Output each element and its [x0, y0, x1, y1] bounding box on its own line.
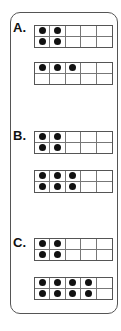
- counter-dot-icon: [54, 251, 61, 258]
- counter-dot-icon: [85, 279, 92, 286]
- ten-frame-cell: [81, 289, 96, 300]
- ten-frame-cell: [50, 132, 65, 143]
- ten-frame-cell: [97, 26, 112, 37]
- counter-dot-icon: [39, 240, 46, 247]
- ten-frame-cell: [81, 278, 96, 289]
- counter-dot-icon: [39, 144, 46, 151]
- counter-dot-icon: [39, 279, 46, 286]
- ten-frame-cell: [97, 63, 112, 74]
- counter-dot-icon: [39, 38, 46, 45]
- ten-frame-cell: [35, 182, 50, 193]
- ten-frame-cell: [35, 278, 50, 289]
- counter-dot-icon: [69, 279, 76, 286]
- ten-frame-b2: [34, 170, 113, 193]
- ten-frame-cell: [50, 239, 65, 250]
- problem-label-c: C.: [13, 236, 26, 249]
- ten-frame-cell: [66, 132, 81, 143]
- counter-dot-icon: [39, 27, 46, 34]
- ten-frame-cell: [97, 239, 112, 250]
- counter-dot-icon: [69, 172, 76, 179]
- ten-frame-cell: [50, 143, 65, 154]
- ten-frame-cell: [66, 171, 81, 182]
- problem-label-b: B.: [13, 129, 26, 142]
- ten-frame-cell: [97, 278, 112, 289]
- counter-dot-icon: [54, 27, 61, 34]
- ten-frame-cell: [97, 132, 112, 143]
- ten-frame-cell: [97, 250, 112, 261]
- ten-frame-cell: [97, 37, 112, 48]
- ten-frame-a2: [34, 62, 113, 85]
- problem-label-a: A.: [13, 21, 26, 34]
- counter-dot-icon: [39, 64, 46, 71]
- counter-dot-icon: [69, 183, 76, 190]
- counter-dot-icon: [69, 64, 76, 71]
- ten-frame-cell: [50, 171, 65, 182]
- ten-frame-cell: [81, 132, 96, 143]
- ten-frame-cell: [66, 63, 81, 74]
- ten-frame-cell: [35, 26, 50, 37]
- ten-frame-cell: [66, 250, 81, 261]
- ten-frame-b1: [34, 131, 113, 154]
- ten-frame-cell: [97, 289, 112, 300]
- counter-dot-icon: [54, 240, 61, 247]
- counter-dot-icon: [85, 290, 92, 297]
- ten-frame-cell: [66, 143, 81, 154]
- ten-frame-cell: [97, 182, 112, 193]
- ten-frame-cell: [50, 74, 65, 85]
- ten-frame-cell: [81, 26, 96, 37]
- ten-frame-cell: [81, 74, 96, 85]
- ten-frame-cell: [35, 239, 50, 250]
- ten-frame-cell: [50, 63, 65, 74]
- ten-frame-cell: [81, 239, 96, 250]
- ten-frame-cell: [97, 171, 112, 182]
- ten-frame-cell: [50, 278, 65, 289]
- counter-dot-icon: [54, 183, 61, 190]
- ten-frame-cell: [35, 289, 50, 300]
- ten-frame-cell: [35, 250, 50, 261]
- ten-frame-cell: [81, 143, 96, 154]
- ten-frame-cell: [81, 250, 96, 261]
- counter-dot-icon: [69, 290, 76, 297]
- ten-frame-cell: [50, 26, 65, 37]
- ten-frame-cell: [97, 143, 112, 154]
- ten-frame-cell: [81, 63, 96, 74]
- ten-frame-cell: [35, 143, 50, 154]
- ten-frame-cell: [81, 182, 96, 193]
- ten-frame-cell: [66, 182, 81, 193]
- ten-frame-cell: [97, 74, 112, 85]
- ten-frame-cell: [66, 278, 81, 289]
- ten-frame-cell: [66, 37, 81, 48]
- ten-frame-cell: [81, 171, 96, 182]
- ten-frame-cell: [50, 289, 65, 300]
- ten-frame-c2: [34, 277, 113, 300]
- counter-dot-icon: [39, 290, 46, 297]
- ten-frame-a1: [34, 25, 113, 48]
- ten-frame-cell: [50, 37, 65, 48]
- counter-dot-icon: [54, 64, 61, 71]
- ten-frame-cell: [66, 74, 81, 85]
- counter-dot-icon: [54, 133, 61, 140]
- ten-frame-cell: [66, 239, 81, 250]
- ten-frame-cell: [66, 289, 81, 300]
- counter-dot-icon: [39, 183, 46, 190]
- counter-dot-icon: [39, 251, 46, 258]
- ten-frame-c1: [34, 238, 113, 261]
- counter-dot-icon: [39, 133, 46, 140]
- ten-frame-cell: [66, 26, 81, 37]
- ten-frame-cell: [35, 63, 50, 74]
- ten-frame-cell: [81, 37, 96, 48]
- counter-dot-icon: [54, 172, 61, 179]
- ten-frame-cell: [35, 74, 50, 85]
- ten-frame-cell: [50, 250, 65, 261]
- worksheet-panel: [10, 12, 118, 314]
- counter-dot-icon: [54, 144, 61, 151]
- counter-dot-icon: [39, 172, 46, 179]
- ten-frame-cell: [35, 171, 50, 182]
- counter-dot-icon: [54, 38, 61, 45]
- ten-frame-cell: [50, 182, 65, 193]
- counter-dot-icon: [54, 279, 61, 286]
- ten-frame-cell: [35, 37, 50, 48]
- counter-dot-icon: [54, 290, 61, 297]
- ten-frame-cell: [35, 132, 50, 143]
